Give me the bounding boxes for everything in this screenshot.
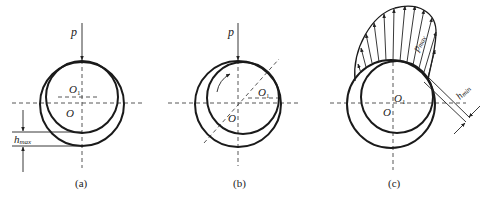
hmin-arrow-in xyxy=(469,106,480,117)
panel-a: p O1 O hmax (a) xyxy=(12,23,142,190)
bearing-center-label: O xyxy=(66,107,74,119)
panel-b: p O1 O (b) xyxy=(168,23,298,190)
panel-c: pmax hmin O1 O (c) xyxy=(330,6,480,190)
journal-bearing-figure: p O1 O hmax (a) p O1 O (b) xyxy=(0,0,483,202)
load-label: p xyxy=(70,25,77,39)
load-label: p xyxy=(227,25,234,39)
bearing-circle xyxy=(347,60,435,148)
hmin-label: hmin xyxy=(454,82,474,102)
journal-center-label: O1 xyxy=(69,83,81,97)
bearing-center-label: O xyxy=(383,106,391,118)
rotation-arrow xyxy=(217,74,230,92)
hmin-arrow-out xyxy=(454,123,465,134)
journal-center-label: O1 xyxy=(394,92,406,106)
hmax-label: hmax xyxy=(14,133,32,146)
bearing-center-label: O xyxy=(228,112,236,124)
journal-center-label: O1 xyxy=(258,86,270,100)
caption-b: (b) xyxy=(233,177,246,190)
hmin-line-2 xyxy=(424,82,466,122)
caption-a: (a) xyxy=(75,177,88,190)
caption-c: (c) xyxy=(388,177,401,190)
